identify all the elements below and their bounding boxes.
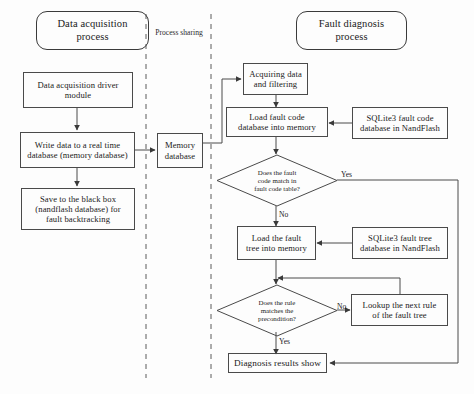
edge-label-rule-no: No bbox=[337, 302, 346, 311]
node-save-black-box[interactable]: Save to the black box (nandflash databas… bbox=[21, 188, 135, 230]
lane-header-fault-diagnosis: Fault diagnosis process bbox=[296, 11, 407, 50]
node-load-fault-code-database[interactable]: Load fault code database into memory bbox=[226, 107, 328, 137]
node-lookup-next-rule[interactable]: Lookup the next rule of the fault tree bbox=[351, 294, 448, 326]
lane-header-data-acquisition: Data acquisition process bbox=[36, 11, 149, 50]
node-memory-database[interactable]: Memory database bbox=[157, 133, 203, 168]
flowchart-canvas: Data acquisition process Fault diagnosis… bbox=[0, 0, 474, 394]
node-sqlite3-fault-code-database[interactable]: SQLite3 fault code database in NandFlash bbox=[352, 107, 448, 139]
decision-fault-code-match-shape[interactable] bbox=[216, 154, 338, 207]
edge-label-fault-code-no: No bbox=[279, 210, 288, 219]
edge-label-fault-code-yes: Yes bbox=[341, 170, 352, 179]
node-load-fault-tree[interactable]: Load the fault tree into memory bbox=[237, 226, 316, 260]
edge-label-rule-yes: Yes bbox=[279, 337, 290, 346]
edge-decision1-yes-to-results bbox=[330, 180, 458, 363]
decision-rule-precondition-shape[interactable] bbox=[216, 284, 338, 337]
node-write-realtime-database[interactable]: Write data to a real time database (memo… bbox=[20, 132, 135, 168]
node-sqlite3-fault-tree-database[interactable]: SQLite3 fault tree database in NandFlash bbox=[352, 227, 448, 259]
lane-label-process-sharing: Process sharing bbox=[153, 28, 205, 37]
node-acquiring-data-filtering[interactable]: Acquiring data and filtering bbox=[243, 63, 308, 95]
node-diagnosis-results-show[interactable]: Diagnosis results show bbox=[228, 353, 327, 373]
node-data-acquisition-driver-module[interactable]: Data acquisition driver module bbox=[23, 72, 133, 108]
